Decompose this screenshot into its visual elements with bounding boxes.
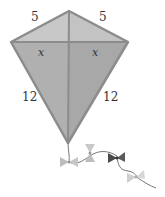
- label-bottom-right-side: 12: [103, 90, 118, 104]
- label-left-segment: x: [38, 46, 45, 59]
- label-top-left-side: 5: [31, 10, 39, 24]
- label-right-segment: x: [92, 46, 99, 59]
- kite-diagram: 5 5 x x 12 12: [0, 0, 165, 197]
- label-bottom-left-side: 12: [22, 90, 37, 104]
- kite-tail-string: [68, 143, 156, 188]
- tail-bow-3: [108, 152, 125, 163]
- label-top-right-side: 5: [99, 10, 107, 24]
- tail-bow-2: [85, 144, 95, 162]
- kite-vertical-spar: [68, 11, 69, 143]
